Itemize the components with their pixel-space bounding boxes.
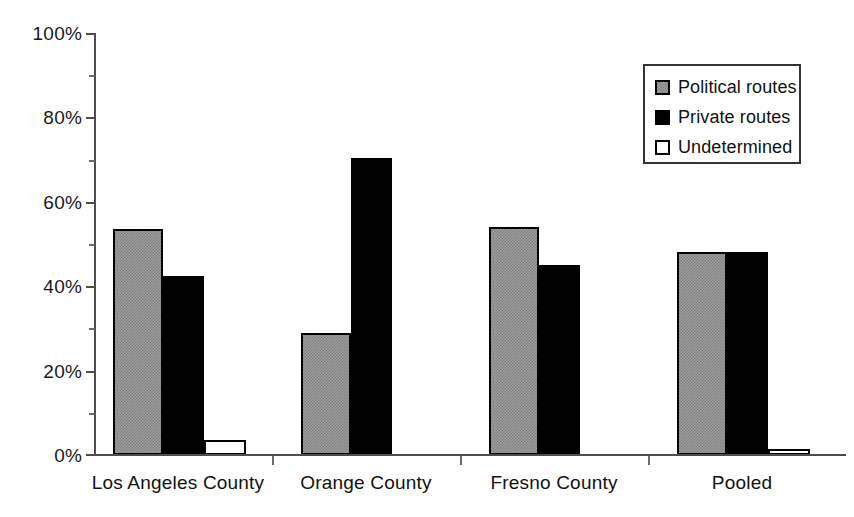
bar-fresno-county-political	[489, 227, 539, 455]
y-minor-tick-30	[89, 328, 95, 330]
legend-swatch-private-icon	[655, 110, 670, 125]
bar-los-angeles-county-undetermined	[204, 440, 246, 455]
y-minor-tick-90	[89, 75, 95, 77]
legend-item-political-routes: Political routes	[655, 72, 799, 102]
legend-swatch-undetermined-icon	[655, 140, 670, 155]
y-major-tick-100	[86, 33, 95, 35]
bar-chart: 100% 80% 60% 40% 20% 0%	[0, 0, 854, 517]
y-major-tick-40	[86, 286, 95, 288]
y-axis-label-80: 80%	[6, 108, 82, 127]
y-major-tick-20	[86, 371, 95, 373]
x-axis-label-los-angeles-county: Los Angeles County	[84, 472, 272, 494]
x-separator-tick-3	[648, 456, 650, 465]
legend-label-undetermined: Undetermined	[678, 137, 792, 157]
x-axis-label-orange-county: Orange County	[272, 472, 460, 494]
y-axis-label-20: 20%	[6, 362, 82, 381]
legend-label-political-routes: Political routes	[678, 77, 797, 97]
y-minor-tick-70	[89, 160, 95, 162]
legend-label-private-routes: Private routes	[678, 107, 790, 127]
bar-orange-county-political	[301, 333, 351, 455]
bar-fresno-county-private	[539, 265, 580, 455]
y-minor-tick-50	[89, 244, 95, 246]
y-axis-label-100: 100%	[6, 24, 82, 43]
bar-los-angeles-county-private	[163, 276, 204, 455]
bar-pooled-private	[727, 252, 768, 455]
y-axis-label-60: 60%	[6, 193, 82, 212]
chart-legend: Political routes Private routes Undeterm…	[643, 64, 801, 164]
x-separator-tick-1	[272, 456, 274, 465]
y-axis-label-40: 40%	[6, 277, 82, 296]
x-separator-tick-2	[460, 456, 462, 465]
y-axis-label-0: 0%	[6, 446, 82, 465]
x-axis-line	[94, 454, 846, 456]
bar-orange-county-private	[351, 158, 392, 456]
y-major-tick-60	[86, 202, 95, 204]
x-axis-label-pooled: Pooled	[648, 472, 836, 494]
y-minor-tick-10	[89, 413, 95, 415]
legend-item-private-routes: Private routes	[655, 102, 799, 132]
x-axis-label-fresno-county: Fresno County	[460, 472, 648, 494]
legend-swatch-political-icon	[655, 80, 670, 95]
bar-los-angeles-county-political	[113, 229, 163, 455]
bar-pooled-political	[677, 252, 727, 455]
y-axis-labels: 100% 80% 60% 40% 20% 0%	[0, 0, 82, 517]
legend-item-undetermined: Undetermined	[655, 132, 799, 162]
y-major-tick-80	[86, 117, 95, 119]
